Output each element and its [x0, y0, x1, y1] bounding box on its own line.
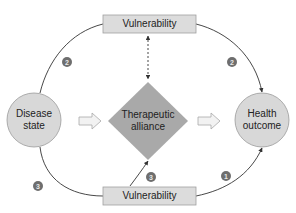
svg-text:2: 2: [65, 59, 69, 66]
connector-disease-to-top-vulnerability: [40, 24, 103, 93]
vulnerability-top-label: Vulnerability: [103, 15, 196, 33]
disease-state-line2: state: [7, 120, 61, 132]
health-outcome-line2: outcome: [235, 120, 289, 132]
svg-text:3: 3: [149, 174, 153, 181]
disease-state-label: Disease state: [7, 108, 61, 132]
hollow-arrow-left-icon: [79, 113, 101, 129]
badge-top-right: 2: [227, 57, 237, 67]
badge-bottom-left: 3: [33, 181, 43, 191]
health-outcome-label: Health outcome: [235, 108, 289, 132]
svg-text:1: 1: [224, 173, 228, 180]
therapeutic-alliance-label: Therapeutic alliance: [113, 109, 183, 133]
badge-top-left: 2: [62, 57, 72, 67]
therapeutic-alliance-line1: Therapeutic: [113, 109, 183, 121]
connector-disease-to-bottom-vulnerability: [40, 147, 103, 196]
svg-text:3: 3: [36, 183, 40, 190]
disease-state-line1: Disease: [7, 108, 61, 120]
badge-bottom-center: 3: [146, 172, 156, 182]
svg-text:2: 2: [230, 59, 234, 66]
hollow-arrow-right-icon: [198, 113, 220, 129]
vulnerability-bottom-label: Vulnerability: [103, 187, 196, 205]
badge-bottom-right: 1: [221, 171, 231, 181]
health-outcome-line1: Health: [235, 108, 289, 120]
therapeutic-alliance-line2: alliance: [113, 121, 183, 133]
connector-bottom-vulnerability-to-alliance: [130, 161, 148, 186]
